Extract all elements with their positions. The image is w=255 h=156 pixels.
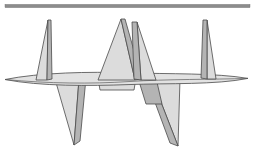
horizontal-rule-bar: [5, 4, 250, 7]
spike-6-shaded-face: [201, 20, 207, 79]
spike-1-front-face: [36, 20, 48, 80]
upward-spikes-group: [36, 19, 216, 80]
spike-6-front-face: [207, 20, 216, 79]
spike-1-shaded-face: [47, 20, 52, 80]
top-rule-group: [5, 4, 250, 7]
figure-canvas: Spike deformation figure Flat lens-shape…: [0, 0, 255, 156]
figure-container: Spike deformation figure Flat lens-shape…: [0, 0, 255, 156]
